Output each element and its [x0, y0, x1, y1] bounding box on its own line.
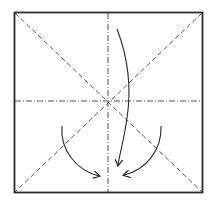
right-arrow: [124, 126, 161, 175]
long-arrow: [117, 29, 129, 165]
left-arrow: [62, 126, 99, 176]
origami-diagram: [0, 0, 213, 205]
